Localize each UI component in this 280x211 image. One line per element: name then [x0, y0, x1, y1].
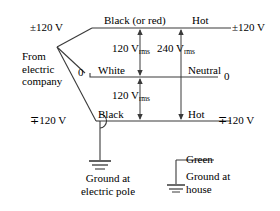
split-phase-wiring-diagram: ±120 V From electric company 0 ∓120 V Bl… [0, 0, 280, 211]
ground-label-pole-line1: Ground at [86, 172, 130, 184]
arrow-120-lower-head-up [137, 78, 142, 84]
arrow-240-head-up [178, 29, 183, 35]
service-label-neutral: Neutral [188, 64, 221, 76]
conductor-label-white: White [98, 64, 125, 76]
terminal-label-top-left-voltage: ±120 V [30, 21, 63, 33]
terminal-label-bottom-right-voltage: ∓120 V [218, 114, 254, 126]
conductor-label-top-black: Black (or red) [104, 14, 166, 26]
measurement-label-120-upper: 120 Vrms [112, 42, 150, 58]
measurement-label-240: 240 Vrms [157, 42, 195, 58]
ground-label-house: Ground at house [186, 170, 274, 195]
ground-label-house-line2: house [186, 183, 212, 195]
arrow-240-head-down [178, 114, 183, 120]
ground-label-pole: Ground at electric pole [68, 172, 148, 197]
terminal-label-top-right-voltage: ±120 V [232, 21, 265, 33]
measurement-unit-240: rms [184, 47, 195, 56]
measurement-value-120-lower: 120 V [112, 89, 139, 101]
arrow-120-upper-head-up [137, 29, 142, 35]
measurement-unit-120-lower: rms [139, 94, 150, 103]
conductor-label-green: Green [186, 153, 213, 165]
measurement-unit-120-upper: rms [139, 47, 150, 56]
ground-label-house-line1: Ground at [186, 170, 230, 182]
terminal-label-mid-right-zero: 0 [224, 70, 230, 82]
service-label-bottom-hot: Hot [188, 108, 205, 120]
source-label-line1: From [22, 50, 46, 62]
service-label-top-hot: Hot [192, 14, 209, 26]
conductor-label-bottom-black: Black [98, 108, 124, 120]
measurement-value-240: 240 V [157, 42, 184, 54]
arrow-120-upper-head-down [137, 70, 142, 76]
measurement-label-120-lower: 120 Vrms [112, 89, 150, 105]
terminal-label-bottom-left-voltage: ∓120 V [30, 114, 66, 126]
source-label-line3: company [22, 75, 62, 87]
source-label: From electric company [22, 50, 74, 88]
ground-label-pole-line2: electric pole [81, 185, 135, 197]
measurement-value-120-upper: 120 V [112, 42, 139, 54]
terminal-label-mid-left-zero: 0 [78, 66, 84, 78]
source-label-line2: electric [22, 63, 54, 75]
arrow-120-lower-head-down [137, 114, 142, 120]
